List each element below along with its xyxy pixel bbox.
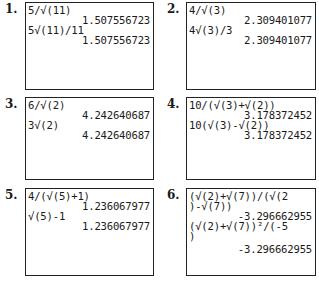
result-line: -3.296662955 <box>189 244 312 254</box>
result-line: 4.242640687 <box>28 130 150 140</box>
calculator-screen-3: 6/√(2) 4.242640687 3√(2) 4.242640687 <box>25 97 154 180</box>
panel-2-number: 2. <box>167 3 180 15</box>
calculator-screen-2: 4/√(3) 2.309401077 4√(3)/3 2.309401077 <box>186 2 316 90</box>
result-line: 2.309401077 <box>189 35 312 45</box>
calculator-screen-6: (√(2)+√(7))/(√(2 )-√(7)) -3.296662955 (√… <box>186 188 316 276</box>
expression-line: (√(2)+√(7))²/(-5 <box>189 221 312 231</box>
panel-4-number: 4. <box>167 98 180 110</box>
calculator-screen-1: 5/√(11) 1.507556723 5√(11)/11 1.50755672… <box>25 2 154 90</box>
calculator-screen-4: 10/(√(3)+√(2)) 3.178372452 10(√(3)-√(2))… <box>186 97 316 180</box>
panel-5-number: 5. <box>5 189 18 201</box>
panel-3-number: 3. <box>5 98 18 110</box>
panel-6-number: 6. <box>167 189 180 201</box>
panel-1-number: 1. <box>5 3 18 15</box>
expression-line: ) <box>189 231 312 241</box>
calculator-screen-5: 4/(√(5)+1) 1.236067977 √(5)-1 1.23606797… <box>25 188 154 276</box>
result-line: 1.236067977 <box>28 221 150 231</box>
result-line: 1.507556723 <box>28 35 150 45</box>
result-line: 3.178372452 <box>189 130 312 140</box>
